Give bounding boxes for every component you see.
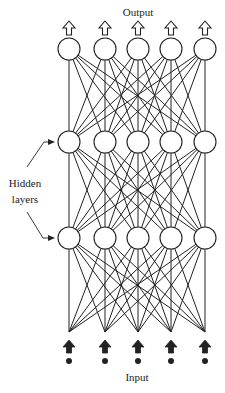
pointer-arrowhead-icon <box>48 235 55 241</box>
hidden-layers-label-line1: Hidden <box>9 178 41 189</box>
hidden-layers-label-line2: layers <box>12 194 38 205</box>
connection-line <box>69 245 163 332</box>
input-arrow-icon <box>99 340 111 353</box>
hidden-2-node <box>194 227 216 249</box>
input-arrow-icon <box>199 340 211 353</box>
output-arrow-icon <box>99 21 111 35</box>
input-arrow-icon <box>165 340 177 353</box>
output-arrow-icon <box>63 21 75 35</box>
hidden-2-node <box>58 227 80 249</box>
hidden-2-node <box>94 227 116 249</box>
input-dot <box>102 358 108 364</box>
hidden-pointer-upper <box>27 142 49 167</box>
output-arrow-icon <box>199 21 211 35</box>
hidden-1-node <box>94 131 116 153</box>
output-node <box>160 38 182 60</box>
output-node <box>127 38 149 60</box>
input-dot <box>135 358 141 364</box>
input-arrow-icon <box>63 340 75 353</box>
connection-line <box>113 246 205 332</box>
connection-line <box>138 248 167 332</box>
output-node <box>194 38 216 60</box>
input-dot <box>202 358 208 364</box>
hidden-2-node <box>127 227 149 249</box>
connection-line <box>69 248 101 332</box>
output-arrow-icon <box>165 21 177 35</box>
input-dot <box>168 358 174 364</box>
pointer-arrowhead-icon <box>48 139 55 145</box>
hidden-1-node <box>127 131 149 153</box>
input-label: Input <box>125 372 148 383</box>
output-node <box>94 38 116 60</box>
hidden-2-node <box>160 227 182 249</box>
hidden-1-node <box>58 131 80 153</box>
input-arrow-icon <box>132 340 144 353</box>
connection-line <box>144 247 205 332</box>
connection-line <box>109 248 138 332</box>
hidden-1-node <box>160 131 182 153</box>
neural-network-diagram: Output Input Hidden layers <box>0 0 225 393</box>
output-label: Output <box>123 7 154 18</box>
output-arrow-icon <box>132 21 144 35</box>
connection-line <box>175 248 205 332</box>
output-node <box>58 38 80 60</box>
hidden-1-node <box>194 131 216 153</box>
input-dot <box>66 358 72 364</box>
hidden-pointer-lower <box>27 212 49 238</box>
